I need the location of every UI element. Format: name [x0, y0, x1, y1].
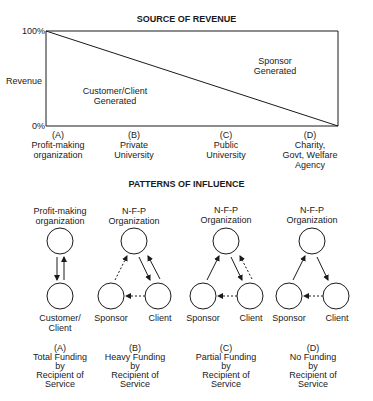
panel-c-sponsor-label: Sponsor [178, 313, 228, 323]
panel-d-graphics [276, 228, 349, 309]
panel-d-client-label: Client [312, 313, 362, 323]
category-a-line2: organization [20, 150, 96, 160]
category-d-line2: Govt, Welfare [270, 150, 350, 160]
panel-a-customer-label: Customer/ [25, 313, 95, 323]
category-d-letter: (D) [270, 130, 350, 140]
panel-b-top-1: N-F-P [94, 206, 174, 216]
panel-a-top-2: organization [20, 216, 100, 226]
sponsor-region-label-1: Sponsor [245, 56, 305, 66]
client-region-label-1: Customer/Client [75, 86, 155, 96]
panel-a-client-label: Client [25, 323, 95, 333]
revenue-chart [46, 31, 338, 126]
category-d-line1: Charity, [270, 140, 350, 150]
category-b-line1: Private [96, 140, 172, 150]
panel-d-top-1: N-F-P [272, 205, 352, 215]
client-region-label-2: Generated [75, 96, 155, 106]
panel-b-graphics [98, 228, 171, 309]
category-b-line2: University [96, 150, 172, 160]
chart-title: SOURCE OF REVENUE [0, 14, 373, 24]
panel-b-top-2: Organization [94, 216, 174, 226]
panel-d-top-2: Organization [272, 215, 352, 225]
panel-a-top-1: Profit-making [20, 206, 100, 216]
panel-a-caption-5: Service [20, 379, 100, 389]
category-c-letter: (C) [188, 130, 264, 140]
panel-d-sponsor-label: Sponsor [264, 313, 314, 323]
category-a-letter: (A) [20, 130, 96, 140]
panel-c-graphics [190, 228, 263, 309]
y-top-label: 100% [17, 26, 45, 36]
panel-b-caption-5: Service [95, 379, 175, 389]
category-d-line3: Agency [270, 160, 350, 170]
panel-b-sponsor-label: Sponsor [86, 313, 136, 323]
y-axis-label: Revenue [4, 76, 44, 86]
category-c-line1: Public [188, 140, 264, 150]
panel-c-top-1: N-F-P [186, 205, 266, 215]
diagram-graphics [0, 0, 373, 401]
category-a-line1: Profit-making [20, 140, 96, 150]
panel-c-caption-5: Service [186, 379, 266, 389]
panel-c-top-2: Organization [186, 215, 266, 225]
diagram-title: PATTERNS OF INFLUENCE [0, 179, 373, 189]
panel-d-caption-5: Service [273, 379, 353, 389]
panel-a-graphics [47, 228, 73, 309]
category-c-line2: University [188, 150, 264, 160]
revenue-split-line [46, 31, 338, 126]
category-b-letter: (B) [96, 130, 172, 140]
sponsor-region-label-2: Generated [245, 66, 305, 76]
